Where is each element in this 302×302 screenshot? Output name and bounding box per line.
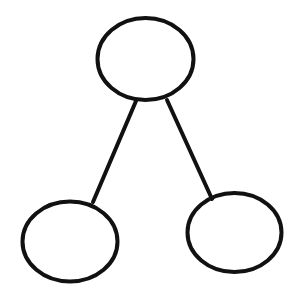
- tree-diagram: [0, 0, 302, 302]
- diagram-background: [0, 0, 302, 302]
